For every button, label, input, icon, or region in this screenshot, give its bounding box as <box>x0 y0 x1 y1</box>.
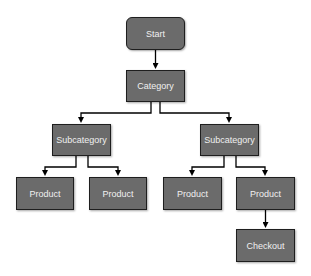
edge-category-subcat-left <box>81 102 151 120</box>
edge-category-subcat-right <box>160 102 229 120</box>
node-product-2: Product <box>89 177 147 210</box>
node-label: Product <box>102 189 133 199</box>
node-label: Start <box>146 29 165 39</box>
node-category: Category <box>126 70 185 102</box>
node-label: Checkout <box>246 241 284 251</box>
node-label: Product <box>177 189 208 199</box>
edge-subcat-right-product-3 <box>192 156 224 173</box>
node-start: Start <box>126 17 185 50</box>
node-label: Product <box>250 189 281 199</box>
node-subcategory-left: Subcategory <box>52 124 111 156</box>
node-checkout: Checkout <box>236 229 295 262</box>
edge-subcat-right-product-4 <box>236 156 265 173</box>
node-label: Product <box>29 189 60 199</box>
edge-subcat-left-product-2 <box>88 156 118 173</box>
node-subcategory-right: Subcategory <box>200 124 259 156</box>
diagram-canvas: Start Category Subcategory Subcategory P… <box>0 0 311 276</box>
edge-subcat-left-product-1 <box>45 156 76 173</box>
node-label: Subcategory <box>204 135 255 145</box>
node-product-4: Product <box>236 177 295 210</box>
node-label: Category <box>137 81 174 91</box>
node-product-1: Product <box>16 177 74 210</box>
node-product-3: Product <box>163 177 222 210</box>
node-label: Subcategory <box>56 135 107 145</box>
